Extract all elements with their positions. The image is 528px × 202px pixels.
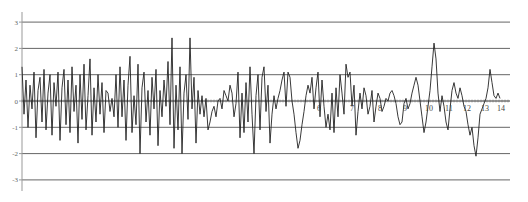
- y-tick-label: -3: [12, 176, 18, 184]
- y-tick-label: 1: [15, 71, 19, 79]
- x-tick-label: 12: [463, 104, 471, 113]
- y-tick-label: 0: [15, 98, 19, 106]
- x-tick-label: 7: [350, 104, 354, 113]
- signal-line: [22, 38, 500, 156]
- x-tick-label: 10: [425, 104, 433, 113]
- x-tick-label: 14: [497, 104, 505, 113]
- y-tick-label: 3: [15, 19, 19, 27]
- y-axis-ticks: 3210-1-2-3: [12, 19, 22, 185]
- y-tick-label: -1: [12, 124, 18, 132]
- x-tick-label: 6: [317, 104, 321, 113]
- x-tick-label: 11: [445, 104, 453, 113]
- y-tick-label: -2: [12, 150, 18, 158]
- y-tick-label: 2: [15, 45, 19, 53]
- x-tick-label: 8: [378, 104, 382, 113]
- line-chart: 3210-1-2-3 67891011121314: [0, 0, 528, 202]
- x-tick-label: 9: [403, 104, 407, 113]
- x-axis-labels: 67891011121314: [317, 104, 505, 113]
- x-tick-label: 13: [481, 104, 489, 113]
